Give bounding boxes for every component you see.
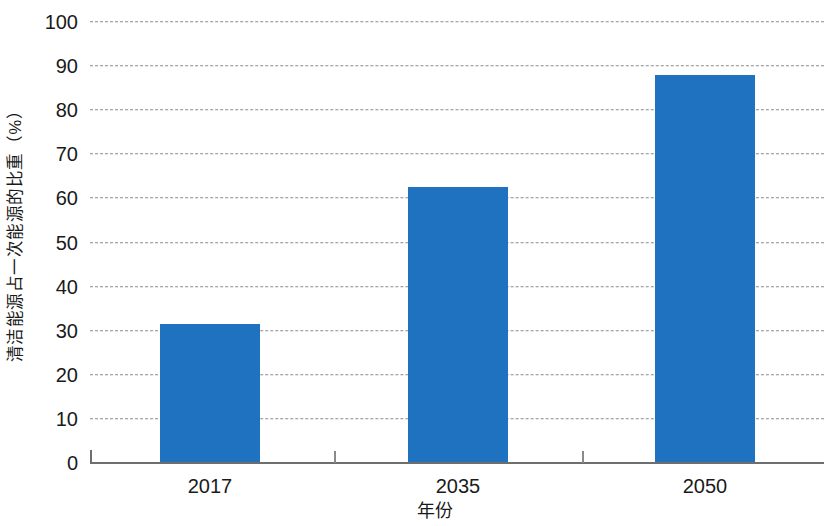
y-axis-tick-label: 0 <box>20 453 78 473</box>
y-axis-tick-label: 20 <box>20 365 78 385</box>
x-axis-tick-label: 2035 <box>378 474 538 498</box>
x-axis-title: 年份 <box>375 499 495 523</box>
y-axis-tick-labels: 1009080706050403020100 <box>18 0 78 526</box>
y-axis-tick-label: 30 <box>20 321 78 341</box>
y-axis-tick-label: 40 <box>20 277 78 297</box>
y-axis-tick-label: 80 <box>20 100 78 120</box>
x-axis-tick-label: 2017 <box>130 474 290 498</box>
x-axis-tick <box>582 451 584 463</box>
x-axis-tick-label: 2050 <box>625 474 785 498</box>
bar <box>408 187 508 463</box>
y-axis-tick-label: 10 <box>20 409 78 429</box>
x-axis-line <box>90 462 824 464</box>
gridline <box>90 65 824 66</box>
gridline <box>90 21 824 22</box>
y-axis-tick-label: 60 <box>20 188 78 208</box>
bar <box>655 75 755 463</box>
y-axis-origin-tick <box>90 450 92 463</box>
y-axis-tick-label: 70 <box>20 144 78 164</box>
y-axis-tick-label: 90 <box>20 56 78 76</box>
bar <box>160 324 260 463</box>
y-axis-tick-label: 100 <box>20 12 78 32</box>
x-axis-tick <box>334 451 336 463</box>
y-axis-tick-label: 50 <box>20 233 78 253</box>
plot-area <box>90 22 824 463</box>
bar-chart: 清洁能源占一次能源的比重（%） 1009080706050403020100 2… <box>0 0 824 526</box>
